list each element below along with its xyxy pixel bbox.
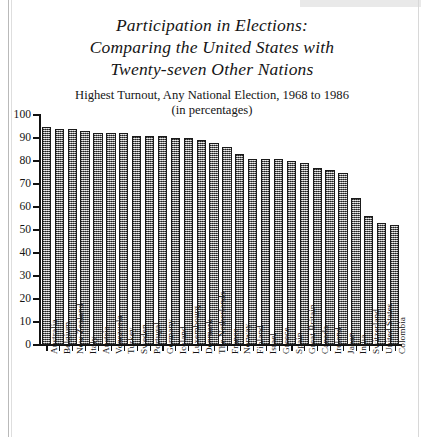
x-axis-tick-label: Canada bbox=[321, 326, 330, 354]
y-axis-tick-label: 70 bbox=[5, 178, 31, 190]
x-axis-tick bbox=[291, 345, 292, 351]
x-axis-tick bbox=[253, 345, 254, 351]
y-axis-tick bbox=[33, 298, 39, 299]
x-axis-tick bbox=[330, 345, 331, 351]
bar bbox=[248, 159, 257, 345]
x-axis-tick bbox=[137, 345, 138, 351]
x-axis-tick-label: Iceland bbox=[179, 326, 188, 354]
x-axis-tick bbox=[304, 345, 305, 351]
x-axis-tick-label: Luxembourg bbox=[192, 306, 201, 354]
x-axis-tick-label: Italy bbox=[89, 337, 98, 354]
x-axis-tick bbox=[175, 345, 176, 351]
x-axis-tick-label: Spain bbox=[295, 333, 304, 354]
x-axis-tick bbox=[317, 345, 318, 351]
y-axis-tick bbox=[33, 229, 39, 230]
x-axis-tick bbox=[72, 345, 73, 351]
y-axis-tick-label: 20 bbox=[5, 293, 31, 305]
x-axis-tick bbox=[46, 345, 47, 351]
bar bbox=[119, 133, 128, 345]
bar bbox=[145, 136, 154, 345]
bar bbox=[261, 159, 270, 345]
x-axis-tick-label: Great Britain bbox=[308, 304, 317, 354]
x-axis-tick bbox=[214, 345, 215, 351]
x-axis-tick-label: Japan bbox=[347, 333, 356, 354]
x-axis-tick-label: Switzerland bbox=[372, 309, 381, 354]
x-axis-tick-label: United States bbox=[385, 303, 394, 354]
x-axis-tick-label: Turkey bbox=[127, 327, 136, 354]
y-axis-tick bbox=[33, 114, 39, 115]
y-axis-tick-label: 90 bbox=[5, 132, 31, 144]
bar bbox=[171, 138, 180, 345]
x-axis-tick bbox=[266, 345, 267, 351]
y-axis-tick-label: 30 bbox=[5, 270, 31, 282]
x-axis-tick-label: Ireland bbox=[334, 327, 343, 354]
x-axis-tick-label: Sweden bbox=[140, 324, 149, 354]
y-axis-tick-label: 100 bbox=[5, 109, 31, 121]
x-axis-tick-label: Colombia bbox=[398, 317, 407, 354]
y-axis-tick-label: 0 bbox=[5, 339, 31, 351]
bar bbox=[42, 127, 51, 346]
x-axis-tick-label: Israel bbox=[269, 333, 278, 354]
x-axis-tick-label: Belgium bbox=[63, 322, 72, 354]
x-axis-tick bbox=[382, 345, 383, 351]
x-axis-tick-label: Austria bbox=[102, 326, 111, 354]
bar bbox=[351, 198, 360, 345]
x-axis-tick bbox=[201, 345, 202, 351]
bar bbox=[158, 136, 167, 345]
bar bbox=[132, 136, 141, 345]
bar-chart: 0102030405060708090100 AustraliaBelgiumN… bbox=[0, 0, 421, 437]
y-axis-tick-label: 60 bbox=[5, 201, 31, 213]
y-axis-tick-label: 80 bbox=[5, 155, 31, 167]
x-axis-tick-label: Denmark bbox=[205, 319, 214, 354]
y-axis-tick bbox=[33, 183, 39, 184]
x-axis-tick-label: India bbox=[359, 335, 368, 354]
y-axis-tick bbox=[33, 206, 39, 207]
bar bbox=[55, 129, 64, 345]
bar bbox=[274, 159, 283, 345]
y-axis-tick bbox=[33, 137, 39, 138]
x-axis-tick-label: New Zealand bbox=[76, 304, 85, 354]
y-axis-tick bbox=[33, 321, 39, 322]
bar bbox=[325, 170, 334, 345]
y-axis-tick bbox=[33, 160, 39, 161]
bar bbox=[235, 154, 244, 345]
bar bbox=[93, 133, 102, 345]
x-axis-tick-label: Norway bbox=[243, 324, 252, 354]
x-axis-tick-label: Portugal bbox=[153, 322, 162, 354]
x-axis-tick-label: Venezuela bbox=[115, 315, 124, 354]
x-axis-tick-label: Australia bbox=[50, 319, 59, 354]
x-axis-tick bbox=[279, 345, 280, 351]
bar bbox=[338, 173, 347, 346]
x-axis-tick bbox=[188, 345, 189, 351]
x-axis-tick bbox=[395, 345, 396, 351]
y-axis-tick-label: 10 bbox=[5, 316, 31, 328]
x-axis-tick-label: France bbox=[231, 328, 240, 354]
x-axis-tick bbox=[150, 345, 151, 351]
bar bbox=[287, 161, 296, 345]
x-axis-tick-label: Greece bbox=[282, 327, 291, 354]
bar bbox=[106, 133, 115, 345]
x-axis-tick bbox=[85, 345, 86, 351]
y-axis-tick bbox=[33, 275, 39, 276]
x-axis-tick-label: The Netherlands bbox=[218, 292, 227, 354]
x-axis-tick bbox=[369, 345, 370, 351]
y-axis-tick bbox=[33, 252, 39, 253]
x-axis-tick bbox=[162, 345, 163, 351]
y-axis-tick-label: 40 bbox=[5, 247, 31, 259]
x-axis-tick-label: Finland bbox=[256, 325, 265, 354]
y-axis-tick bbox=[33, 344, 39, 345]
y-axis-tick-label: 50 bbox=[5, 224, 31, 236]
x-axis-tick bbox=[59, 345, 60, 351]
x-axis-tick-label: Germany bbox=[166, 319, 175, 354]
